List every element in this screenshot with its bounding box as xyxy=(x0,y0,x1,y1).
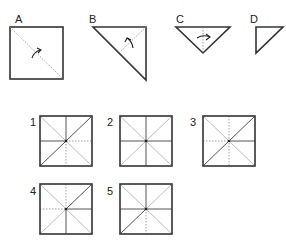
step-c-label: C xyxy=(176,13,184,25)
step-a: A xyxy=(10,13,63,79)
triangle-paper xyxy=(93,27,146,80)
step-b: B xyxy=(89,13,146,80)
option-1[interactable]: 1 xyxy=(30,116,92,166)
option-5-label: 5 xyxy=(107,185,113,197)
step-d: D xyxy=(250,13,283,53)
fold-line xyxy=(10,27,63,79)
option-3[interactable]: 3 xyxy=(190,116,255,166)
fold-line xyxy=(119,27,146,53)
arrow-head-icon xyxy=(206,34,210,40)
option-3-label: 3 xyxy=(190,116,196,128)
step-d-label: D xyxy=(250,13,258,25)
step-b-label: B xyxy=(89,13,96,25)
fold-arrow-icon xyxy=(32,50,40,58)
option-4[interactable]: 4 xyxy=(30,184,92,234)
folding-diagram: A B C D 1 2 xyxy=(0,0,286,246)
step-c: C xyxy=(176,13,230,53)
option-2[interactable]: 2 xyxy=(107,116,172,166)
step-a-label: A xyxy=(15,13,23,25)
option-1-label: 1 xyxy=(30,116,36,128)
triangle-paper xyxy=(256,27,283,53)
option-4-label: 4 xyxy=(30,185,36,197)
option-5[interactable]: 5 xyxy=(107,184,172,234)
option-2-label: 2 xyxy=(107,116,113,128)
